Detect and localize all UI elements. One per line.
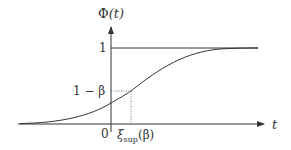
y-tick-one-minus-beta: 1 − β (73, 84, 105, 98)
cdf-diagram: Φ(t) t 1 1 − β 0 ξsup(β) (0, 0, 291, 150)
cdf-curve (20, 48, 258, 124)
y-axis-label: Φ(t) (98, 6, 124, 21)
cdf-plot: Φ(t) t 1 1 − β 0 ξsup(β) (0, 0, 291, 150)
y-tick-one: 1 (99, 41, 107, 55)
x-tick-xi-sup-beta: ξsup(β) (117, 128, 154, 144)
x-tick-zero: 0 (101, 127, 109, 141)
x-axis-label: t (272, 117, 278, 132)
